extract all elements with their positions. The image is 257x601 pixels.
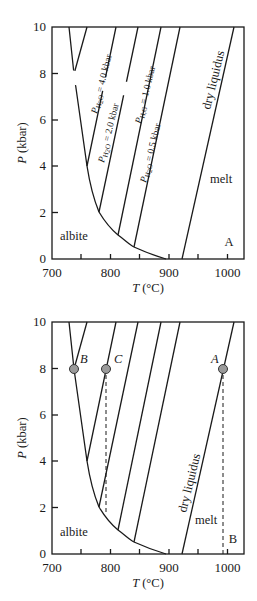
- dry-liquidus-line: [182, 27, 234, 259]
- isopleth-8kbar: [74, 27, 87, 74]
- point-label-b: B: [80, 352, 88, 366]
- isopleth-0.5kbar: [134, 322, 180, 542]
- y-tick-10: 10: [33, 19, 46, 34]
- y-tick-8: 8: [40, 361, 47, 376]
- panel-bottom-points: [70, 365, 228, 374]
- x-tick-1000: 1000: [215, 265, 241, 280]
- y-tick-0: 0: [40, 546, 47, 561]
- point-a: [219, 365, 228, 374]
- panel-bottom-text: 10 8 6 4 2 0 700 800 900 1000 T (°C) P (…: [15, 314, 241, 590]
- x-tick-1000: 1000: [215, 560, 241, 575]
- figure: 10 8 6 4 2 0 700 800 900 1000 T (°C) P (…: [0, 0, 257, 601]
- isopleth-label-0.5kbar: PH2O = 0.5 kbar: [138, 121, 166, 185]
- y-tick-10: 10: [33, 314, 46, 329]
- x-axis-label: T (°C): [132, 576, 164, 590]
- x-tick-800: 800: [101, 560, 121, 575]
- x-tick-700: 700: [42, 560, 62, 575]
- dry-liquidus-label: dry liquidus: [199, 49, 227, 111]
- y-tick-0: 0: [40, 251, 47, 266]
- panel-letter-a: A: [224, 235, 233, 249]
- y-axis-label: P (kbar): [15, 417, 29, 459]
- x-tick-700: 700: [42, 265, 62, 280]
- point-b: [70, 365, 79, 374]
- y-tick-2: 2: [40, 500, 47, 515]
- region-melt: melt: [195, 513, 218, 527]
- isopleth-label-1kbar: PH,G = 1.0 kbar: [133, 64, 159, 126]
- y-axis-label: P (kbar): [15, 122, 29, 164]
- isopleth-1kbar: [118, 322, 161, 530]
- dry-liquidus-label: dry liquidus: [175, 452, 203, 514]
- y-tick-8: 8: [40, 66, 47, 81]
- y-tick-6: 6: [40, 407, 47, 422]
- panel-letter-b: B: [229, 532, 237, 546]
- isopleth-2kbar: [99, 322, 138, 507]
- region-albite: albite: [60, 229, 88, 243]
- x-tick-900: 900: [159, 265, 179, 280]
- point-c: [102, 365, 111, 374]
- y-tick-2: 2: [40, 205, 47, 220]
- isopleth-4kbar: [87, 322, 116, 461]
- y-ticks: [52, 369, 58, 508]
- point-label-c: C: [114, 352, 123, 366]
- point-label-a: A: [210, 352, 219, 366]
- panel-top-text: 10 8 6 4 2 0 700 800 900 1000 T (°C) P (…: [15, 19, 241, 295]
- x-axis-label: T (°C): [132, 281, 164, 295]
- isopleth-label-2kbar: PH2O = 2.0 kbar: [96, 101, 124, 165]
- y-tick-4: 4: [40, 158, 47, 173]
- y-tick-4: 4: [40, 453, 47, 468]
- y-ticks: [52, 74, 58, 213]
- y-tick-6: 6: [40, 112, 47, 127]
- region-melt: melt: [210, 172, 233, 186]
- x-tick-900: 900: [159, 560, 179, 575]
- region-albite: albite: [60, 525, 88, 539]
- x-tick-800: 800: [101, 265, 121, 280]
